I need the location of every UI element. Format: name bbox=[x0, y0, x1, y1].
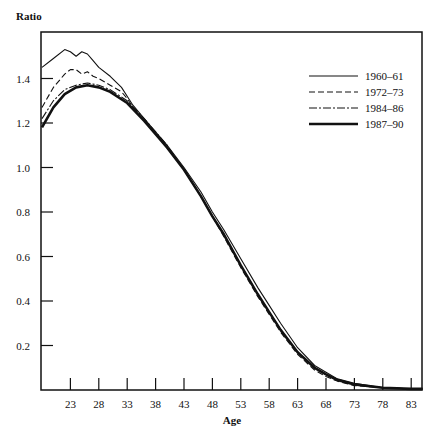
y-axis-title: Ratio bbox=[16, 10, 42, 22]
series-line-1987-90 bbox=[42, 85, 423, 389]
x-tick-label: 83 bbox=[406, 398, 418, 410]
chart-canvas: Ratio 0.20.40.60.81.01.21.4 232833384348… bbox=[0, 0, 436, 437]
series-line-1960-61 bbox=[42, 50, 423, 389]
legend: 1960–611972–731984–861987–90 bbox=[309, 70, 404, 130]
x-tick-label: 33 bbox=[122, 398, 134, 410]
x-tick-label: 58 bbox=[264, 398, 276, 410]
x-axis-ticks: 23283338434853586368737883 bbox=[65, 378, 417, 410]
legend-label: 1984–86 bbox=[365, 102, 404, 114]
x-tick-label: 28 bbox=[93, 398, 105, 410]
x-tick-label: 63 bbox=[292, 398, 304, 410]
legend-label: 1972–73 bbox=[365, 86, 404, 98]
x-tick-label: 78 bbox=[377, 398, 389, 410]
y-tick-label: 1.0 bbox=[16, 162, 30, 174]
y-tick-label: 0.6 bbox=[16, 251, 30, 263]
y-axis-ticks: 0.20.40.60.81.01.21.4 bbox=[16, 73, 53, 352]
legend-label: 1960–61 bbox=[365, 70, 404, 82]
y-tick-label: 1.4 bbox=[16, 73, 30, 85]
legend-label: 1987–90 bbox=[365, 118, 404, 130]
x-tick-label: 38 bbox=[150, 398, 162, 410]
x-tick-label: 68 bbox=[321, 398, 333, 410]
x-tick-label: 53 bbox=[235, 398, 247, 410]
x-tick-label: 73 bbox=[349, 398, 361, 410]
data-series bbox=[42, 50, 423, 389]
x-tick-label: 48 bbox=[207, 398, 219, 410]
x-axis-title: Age bbox=[223, 414, 241, 426]
y-tick-label: 1.2 bbox=[16, 117, 30, 129]
y-tick-label: 0.2 bbox=[16, 340, 30, 352]
x-tick-label: 23 bbox=[65, 398, 77, 410]
y-tick-label: 0.8 bbox=[16, 206, 30, 218]
y-tick-label: 0.4 bbox=[16, 295, 30, 307]
x-tick-label: 43 bbox=[179, 398, 191, 410]
